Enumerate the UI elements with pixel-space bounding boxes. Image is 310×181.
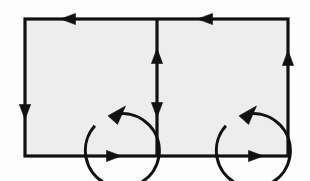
diagram-canvas [0, 0, 310, 181]
left-cell-fill [25, 19, 157, 156]
right-cell-fill [157, 19, 288, 156]
circulation-diagram [0, 0, 310, 181]
